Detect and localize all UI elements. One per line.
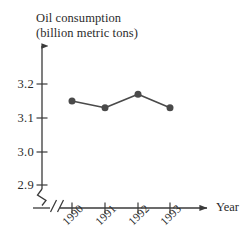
y-axis-label-3-2: 3.2	[4, 77, 34, 92]
y-axis-label-3-1: 3.1	[4, 111, 34, 126]
oil-consumption-line-chart: Oil consumption (billion metric tons)	[0, 0, 240, 252]
x-axis-title: Year	[216, 200, 239, 215]
x-axis-break-slash-1-icon	[51, 200, 57, 212]
data-point-1993	[167, 104, 174, 111]
chart-canvas	[0, 0, 240, 252]
y-axis-group	[37, 46, 48, 206]
data-series-line	[72, 94, 170, 108]
x-axis-break-slash-2-icon	[58, 200, 64, 212]
y-axis-label-2-9: 2.9	[4, 178, 34, 193]
data-point-1992	[135, 91, 142, 98]
y-axis-label-3-0: 3.0	[4, 145, 34, 160]
y-axis-break-icon	[38, 189, 47, 206]
data-point-1991	[102, 104, 109, 111]
data-point-1990	[69, 98, 76, 105]
